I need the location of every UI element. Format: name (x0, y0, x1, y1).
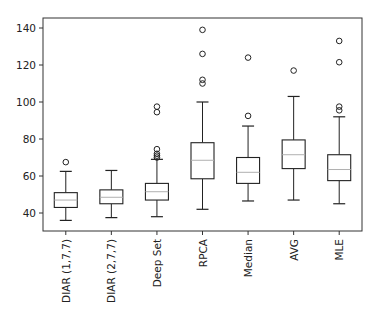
y-tick-label: 140 (16, 22, 36, 34)
box-mle (328, 38, 351, 204)
y-tick-label: 80 (23, 133, 36, 145)
box-rpca (191, 27, 214, 209)
outlier-marker (336, 59, 342, 65)
outlier-marker (245, 113, 251, 119)
outlier-marker (154, 109, 160, 115)
y-tick-label: 60 (23, 170, 36, 182)
outlier-marker (200, 27, 206, 33)
y-tick-label: 40 (23, 207, 36, 219)
box-median (237, 55, 260, 201)
box-plot-chart: 406080100120140 DIAR (1,7,7)DIAR (2,7,7)… (0, 0, 380, 312)
box-diar-1-7-7 (54, 159, 77, 220)
y-tick-label: 120 (16, 59, 36, 71)
outlier-marker (245, 55, 251, 61)
x-axis: DIAR (1,7,7)DIAR (2,7,7)Deep SetRPCAMedi… (60, 231, 345, 303)
box-deep-set (145, 104, 168, 217)
x-category-label: Deep Set (151, 239, 163, 287)
box-diar-2-7-7 (100, 170, 123, 217)
y-axis: 406080100120140 (16, 22, 43, 219)
x-category-label: Median (242, 239, 254, 277)
outlier-marker (200, 77, 206, 83)
outlier-marker (154, 104, 160, 110)
box-avg (282, 68, 305, 200)
outlier-marker (63, 159, 69, 165)
y-tick-label: 100 (16, 96, 36, 108)
outlier-marker (291, 68, 297, 74)
x-category-label: AVG (288, 239, 300, 261)
x-category-label: RPCA (197, 238, 209, 267)
iqr-box (237, 158, 260, 184)
outlier-marker (336, 104, 342, 110)
x-category-label: DIAR (1,7,7) (60, 239, 72, 303)
iqr-box (328, 155, 351, 181)
plot-area (54, 27, 350, 220)
x-category-label: MLE (333, 239, 345, 261)
outlier-marker (336, 38, 342, 44)
x-category-label: DIAR (2,7,7) (105, 239, 117, 303)
outlier-marker (200, 51, 206, 57)
